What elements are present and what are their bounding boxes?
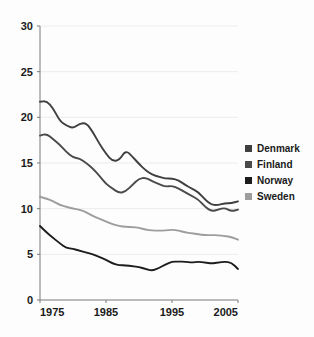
series-line-norway bbox=[40, 226, 238, 270]
y-axis-labels: 051015202530 bbox=[21, 20, 33, 306]
legend-swatch-denmark bbox=[245, 145, 252, 152]
y-tick-label-25: 25 bbox=[21, 66, 33, 78]
line-chart: 051015202530 1975198519952005 Denmark Fi… bbox=[0, 0, 314, 337]
series-line-finland bbox=[40, 134, 238, 210]
x-tick-label-1995: 1995 bbox=[160, 306, 184, 318]
legend-label-denmark: Denmark bbox=[257, 143, 300, 154]
legend-item-sweden[interactable]: Sweden bbox=[245, 189, 313, 204]
x-tick-label-2005: 2005 bbox=[214, 306, 238, 318]
legend-swatch-sweden bbox=[245, 193, 252, 200]
chart-legend: Denmark Finland Norway Sweden bbox=[245, 141, 313, 205]
legend-label-finland: Finland bbox=[257, 159, 293, 170]
legend-swatch-finland bbox=[245, 161, 252, 168]
y-tick-label-0: 0 bbox=[27, 294, 33, 306]
legend-swatch-norway bbox=[245, 177, 252, 184]
y-tick-label-10: 10 bbox=[21, 203, 33, 215]
y-tick-label-15: 15 bbox=[21, 157, 33, 169]
data-series bbox=[40, 101, 238, 270]
legend-label-sweden: Sweden bbox=[257, 191, 295, 202]
x-tick-label-1985: 1985 bbox=[94, 306, 118, 318]
x-axis-labels: 1975198519952005 bbox=[40, 306, 238, 318]
legend-label-norway: Norway bbox=[257, 175, 293, 186]
x-tick-label-1975: 1975 bbox=[40, 306, 64, 318]
legend-item-finland[interactable]: Finland bbox=[245, 157, 313, 172]
y-tick-label-20: 20 bbox=[21, 111, 33, 123]
y-tick-label-5: 5 bbox=[27, 248, 33, 260]
axis-tick-marks bbox=[37, 26, 238, 303]
legend-item-norway[interactable]: Norway bbox=[245, 173, 313, 188]
gridlines bbox=[40, 26, 238, 254]
legend-item-denmark[interactable]: Denmark bbox=[245, 141, 313, 156]
y-tick-label-30: 30 bbox=[21, 20, 33, 32]
